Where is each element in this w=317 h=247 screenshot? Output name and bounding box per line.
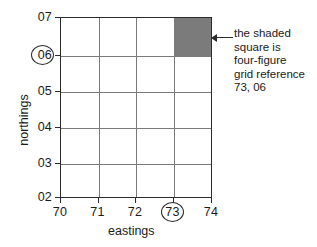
gridline-vertical-71 (99, 18, 100, 197)
x-axis-highlight-circle-73 (161, 202, 184, 222)
y-axis-label-02: 02 (26, 190, 52, 204)
x-axis-title: eastings (108, 224, 155, 238)
tick-y-05 (55, 91, 60, 92)
y-axis-title: northings (17, 88, 31, 152)
tick-x-74 (211, 198, 212, 203)
gridline-vertical-72 (136, 18, 137, 197)
gridline-horizontal-05 (61, 92, 211, 93)
tick-x-70 (60, 198, 61, 203)
y-axis-label-03: 03 (26, 156, 52, 170)
annotation-arrow-head-icon (211, 34, 217, 42)
tick-y-04 (55, 127, 60, 128)
x-axis-label-71: 71 (83, 205, 113, 219)
grid-plot-area (60, 17, 212, 198)
grid-reference-diagram: 07 06 05 04 03 02 70 71 72 73 74 easting… (0, 0, 317, 247)
gridline-horizontal-04 (61, 128, 211, 129)
tick-y-07 (55, 17, 60, 18)
tick-y-06 (55, 55, 60, 56)
shaded-grid-cell (174, 18, 212, 56)
tick-x-71 (98, 198, 99, 203)
gridline-vertical-73 (174, 18, 175, 197)
tick-x-72 (135, 198, 136, 203)
y-axis-highlight-circle-06 (31, 45, 54, 65)
annotation-text: the shaded square is four-figure grid re… (234, 27, 317, 95)
tick-y-03 (55, 163, 60, 164)
annotation-line-4: grid reference (234, 68, 317, 82)
x-axis-label-72: 72 (120, 205, 150, 219)
x-axis-label-70: 70 (45, 205, 75, 219)
annotation-line-3: four-figure (234, 54, 317, 68)
gridline-horizontal-06 (61, 56, 211, 57)
annotation-line-2: square is (234, 41, 317, 55)
annotation-line-1: the shaded (234, 27, 317, 41)
y-axis-label-07: 07 (26, 10, 52, 24)
gridline-horizontal-03 (61, 164, 211, 165)
annotation-line-5: 73, 06 (234, 81, 317, 95)
x-axis-label-74: 74 (196, 205, 226, 219)
